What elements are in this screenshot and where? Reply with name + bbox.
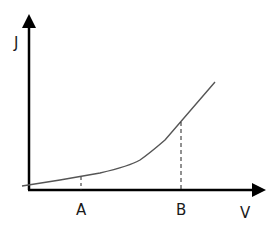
x-axis-label: V — [240, 204, 251, 222]
y-axis-arrow-icon — [22, 14, 36, 28]
x-axis-arrow-icon — [252, 183, 266, 197]
jv-diagram: J V A B — [0, 0, 276, 225]
y-axis-label: J — [13, 34, 18, 52]
marker-a-label: A — [76, 201, 87, 219]
marker-b-label: B — [176, 201, 186, 219]
diagram-canvas: J V A B — [0, 0, 276, 225]
jv-curve — [22, 82, 215, 186]
